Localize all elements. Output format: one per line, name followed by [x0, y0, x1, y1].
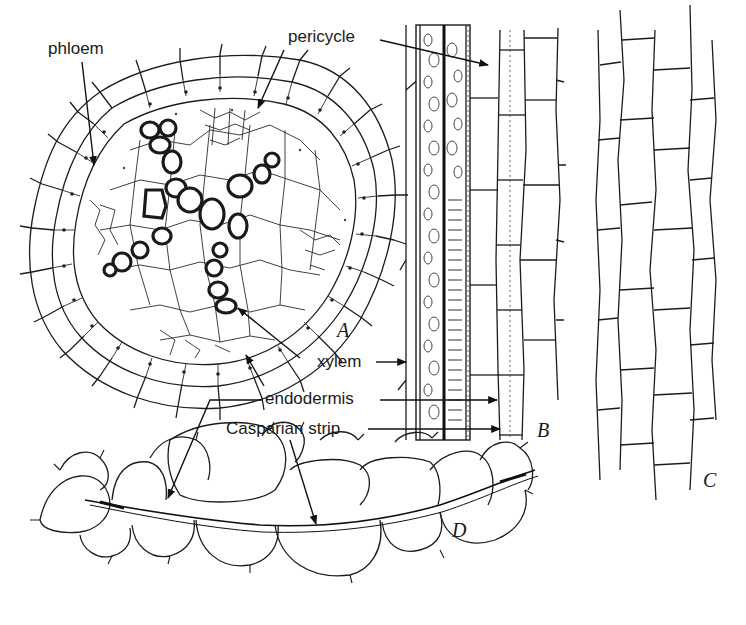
- root-anatomy-figure: phloem pericycle xylem endodermis Caspar…: [0, 0, 746, 625]
- panel-letter-d: D: [452, 520, 466, 540]
- label-xylem: xylem: [317, 353, 361, 370]
- label-casparian-strip: Casparian strip: [226, 420, 340, 437]
- panel-letter-a: A: [337, 320, 349, 340]
- figure-drawing: [0, 0, 746, 625]
- panel-b-longitudinal-section: [398, 25, 566, 440]
- label-phloem: phloem: [48, 40, 104, 57]
- panel-letter-b: B: [537, 420, 549, 440]
- label-pericycle: pericycle: [288, 28, 355, 45]
- panel-c-surface-view: [596, 5, 716, 500]
- panel-letter-c: C: [703, 470, 716, 490]
- label-endodermis: endodermis: [265, 390, 354, 407]
- panel-d-transverse-strip: [30, 422, 538, 583]
